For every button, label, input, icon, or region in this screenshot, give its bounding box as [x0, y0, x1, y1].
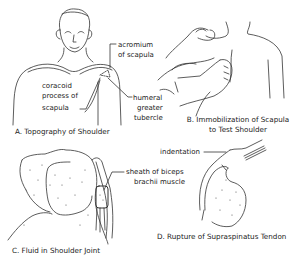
caption-panel-a: A. Topography of Shoulder: [15, 128, 110, 137]
caption-panel-b: B. Immobilization of Scapula: [178, 116, 298, 125]
label-coracoid-line2: process of: [42, 92, 78, 100]
panel-d-figure: [200, 140, 267, 227]
panel-b-figure: [158, 22, 284, 116]
caption-panel-d: D. Rupture of Supraspinatus Tendon: [157, 233, 286, 242]
label-coracoid: coracoid: [42, 82, 72, 90]
label-acromium-line2: of scapula: [118, 51, 154, 59]
panel-c-leader: [104, 172, 124, 190]
caption-panel-c: C. Fluid in Shoulder Joint: [12, 247, 100, 256]
label-humeral-line3: tubercle: [134, 114, 163, 122]
label-indentation: indentation: [160, 148, 200, 156]
caption-panel-b-line2: to Test Shoulder: [178, 126, 298, 135]
label-sheath-line2: brachii muscle: [134, 178, 185, 186]
label-coracoid-line3: scapula: [42, 104, 69, 112]
label-sheath: sheath of biceps: [126, 168, 184, 176]
label-acromium: acromium: [118, 41, 153, 49]
label-humeral-line2: greater: [137, 104, 163, 112]
label-humeral: humeral: [133, 94, 162, 102]
panel-c-figure: [8, 149, 113, 244]
